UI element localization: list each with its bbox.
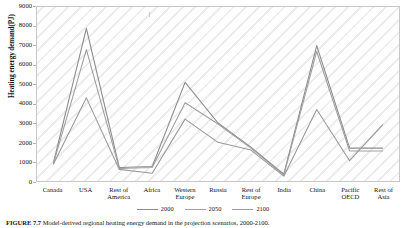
y-axis-tick-label: 5000 [19, 81, 32, 88]
figure-caption: FIGURE 7.7 Model-derived regional heatin… [6, 219, 402, 227]
series-lines [37, 7, 399, 181]
x-axis-labels: CanadaUSARest ofAmericaAfricaWesternEuro… [36, 186, 400, 204]
legend-swatch-2000 [137, 209, 158, 210]
legend-item-2050: 2050 [185, 206, 222, 212]
y-axis-tick-mark [33, 182, 36, 183]
x-axis-tick-label-line: Asia [360, 193, 406, 200]
legend-label-2000: 2000 [161, 206, 174, 212]
x-axis-tick-label-line: Rest of [360, 186, 406, 193]
figure-caption-text: Model-derived regional heating energy de… [43, 219, 270, 226]
series-line-2050 [53, 50, 382, 176]
x-axis-tick-label-line: Europe [228, 193, 274, 200]
plot-area [36, 6, 400, 182]
figure-caption-label: FIGURE 7.7 [6, 219, 41, 226]
x-axis-tick-label-line: Europe [162, 193, 208, 200]
y-axis-tick-label: 3000 [19, 120, 32, 127]
y-axis-tick-label: 6000 [19, 61, 32, 68]
y-axis-tick-label: 7000 [19, 42, 32, 49]
x-axis-tick-label: Rest ofAsia [360, 186, 406, 201]
legend-item-2100: 2100 [232, 206, 269, 212]
y-axis-tick-label: 4000 [19, 100, 32, 107]
legend-label-2100: 2100 [256, 206, 269, 212]
plot-wrapper [36, 6, 400, 182]
chart-legend: 200020502100 [0, 204, 406, 214]
y-axis-tick-label: 1000 [19, 159, 32, 166]
legend-item-2000: 2000 [137, 206, 174, 212]
y-axis-tick-label: 0 [29, 179, 32, 186]
y-axis: Heating energy demand(PJ) 90008000700060… [0, 0, 36, 182]
y-axis-ticks: 9000800070006000500040003000200010000 [0, 0, 36, 182]
legend-swatch-2050 [185, 209, 206, 210]
y-axis-tick-label: 8000 [19, 22, 32, 29]
x-axis-tick-label-line: America [96, 193, 142, 200]
y-axis-tick-label: 9000 [19, 3, 32, 10]
legend-swatch-2100 [232, 209, 253, 210]
figure-container: Heating energy demand(PJ) 90008000700060… [0, 0, 406, 228]
y-axis-tick-label: 2000 [19, 140, 32, 147]
legend-label-2050: 2050 [209, 206, 222, 212]
